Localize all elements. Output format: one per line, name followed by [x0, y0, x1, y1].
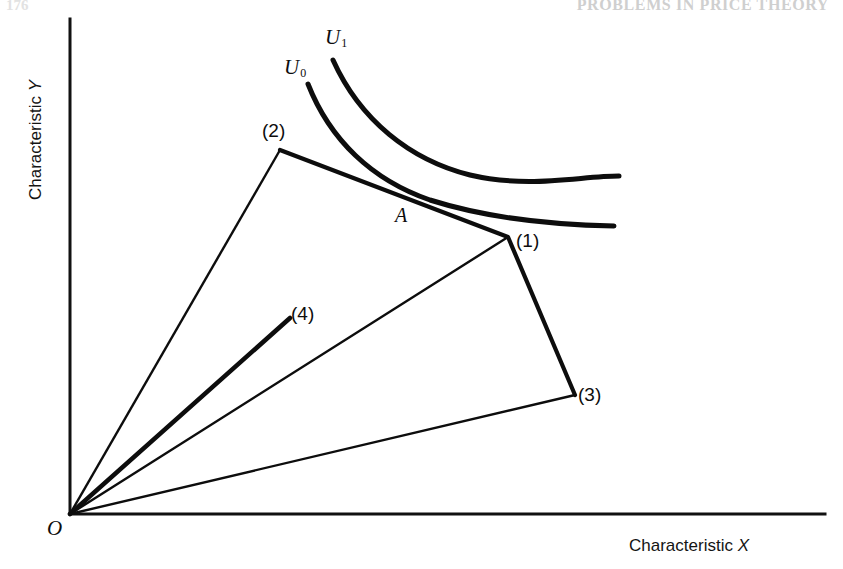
- y-axis-label: Characteristic Y: [26, 60, 46, 220]
- brand-label-2: (2): [262, 120, 285, 142]
- axes-group: [70, 19, 825, 514]
- u1-subscript: 1: [341, 36, 347, 50]
- indifference-curve-u1: [333, 60, 619, 181]
- u1-letter: U: [325, 25, 340, 49]
- brand-label-4: (4): [291, 303, 314, 325]
- ray-to-brand-3: [70, 395, 575, 514]
- indifference-curves-group: [308, 60, 619, 226]
- x-axis-label-text: Characteristic: [629, 536, 738, 555]
- y-axis-label-symbol: Y: [26, 80, 45, 91]
- y-axis-label-text: Characteristic: [26, 91, 45, 200]
- brand-label-3: (3): [578, 384, 601, 406]
- brand-label-1: (1): [516, 230, 539, 252]
- efficiency-frontier: [280, 150, 575, 395]
- ray-to-brand-1: [70, 237, 508, 514]
- indifference-curve-label-u0: U0: [284, 55, 305, 80]
- indifference-curve-label-u1: U1: [325, 25, 346, 50]
- u0-letter: U: [284, 55, 299, 79]
- u0-subscript: 0: [300, 66, 306, 80]
- characteristics-space-figure: [0, 0, 843, 569]
- origin-label: O: [47, 516, 62, 541]
- brand-rays-group: [70, 150, 575, 514]
- indifference-curve-u0: [308, 84, 614, 226]
- ray-to-brand-4: [70, 318, 290, 514]
- tangency-label-a: A: [395, 204, 407, 227]
- x-axis-label-symbol: X: [738, 536, 749, 555]
- figure-page: 176 PROBLEMS IN PRICE THEORY Characteris…: [0, 0, 843, 569]
- efficiency-frontier-group: [280, 150, 575, 395]
- x-axis-label: Characteristic X: [629, 536, 749, 556]
- ray-to-brand-2: [70, 150, 280, 514]
